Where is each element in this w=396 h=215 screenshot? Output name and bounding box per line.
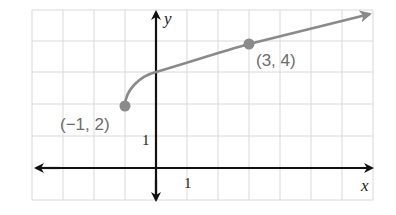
sqrt-curve — [125, 14, 370, 106]
point-start — [120, 101, 131, 112]
point-mid — [244, 39, 255, 50]
point-label-mid: (3, 4) — [256, 51, 296, 70]
x-tick-label: 1 — [184, 175, 192, 191]
point-label-start: (−1, 2) — [60, 115, 110, 134]
y-axis-label: y — [162, 9, 172, 28]
coordinate-graph: (−1, 2) (3, 4) y x 1 1 — [0, 0, 396, 215]
x-axis-label: x — [360, 176, 369, 195]
grid — [32, 10, 373, 200]
y-tick-label: 1 — [142, 132, 150, 148]
